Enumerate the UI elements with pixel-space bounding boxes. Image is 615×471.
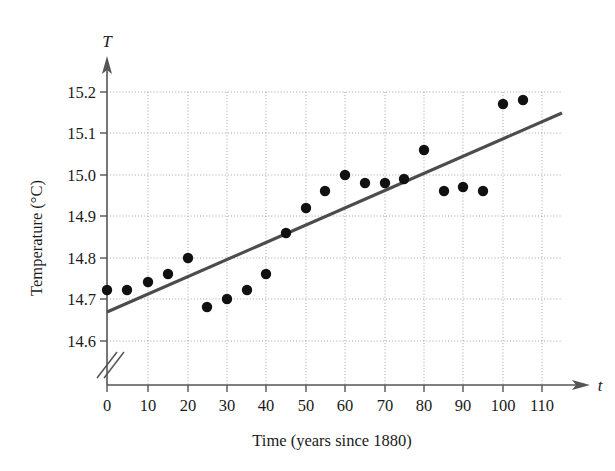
x-axis xyxy=(107,380,590,392)
y-tick-label-4: 15.0 xyxy=(67,166,96,185)
x-tick-label-4: 40 xyxy=(258,396,275,415)
y-tick-label-0: 14.6 xyxy=(67,332,96,351)
y-tick-label-2: 14.8 xyxy=(67,249,96,268)
data-point xyxy=(458,182,468,192)
data-point xyxy=(122,285,132,295)
data-points xyxy=(102,95,528,312)
y-axis-title: Temperature (°C) xyxy=(27,180,46,296)
data-point xyxy=(399,174,409,184)
data-point xyxy=(380,178,390,188)
y-tick-labels: 15.2 15.1 15.0 14.9 14.8 14.7 14.6 xyxy=(67,83,96,351)
x-tick-label-3: 30 xyxy=(219,396,236,415)
data-point xyxy=(419,145,429,155)
y-tick-label-6: 15.2 xyxy=(67,83,96,102)
data-point xyxy=(320,186,330,196)
x-tick-label-6: 60 xyxy=(337,396,354,415)
y-axis-symbol: T xyxy=(102,32,113,51)
data-point xyxy=(202,302,212,312)
data-point xyxy=(439,186,449,196)
x-tick-labels: 0 10 20 30 40 50 60 70 80 90 100 110 xyxy=(103,396,554,415)
data-point xyxy=(102,285,112,295)
data-point xyxy=(143,277,153,287)
x-tick-label-2: 20 xyxy=(180,396,197,415)
x-tick-label-0: 0 xyxy=(103,396,111,415)
data-point xyxy=(360,178,370,188)
x-tick-label-7: 70 xyxy=(377,396,394,415)
y-axis-break-icon xyxy=(97,352,124,378)
scatter-plot-figure: 15.2 15.1 15.0 14.9 14.8 14.7 14.6 0 10 … xyxy=(0,0,615,471)
data-point xyxy=(242,285,252,295)
x-tick-label-8: 80 xyxy=(416,396,433,415)
y-axis xyxy=(97,56,124,385)
data-point xyxy=(183,253,193,263)
data-point xyxy=(340,170,350,180)
data-point xyxy=(498,99,508,109)
x-axis-symbol: t xyxy=(598,376,604,395)
data-point xyxy=(163,269,173,279)
x-tick-label-10: 100 xyxy=(491,396,516,415)
x-axis-title: Time (years since 1880) xyxy=(252,431,411,450)
y-tick-label-3: 14.9 xyxy=(67,207,96,226)
y-tick-label-1: 14.7 xyxy=(67,290,96,309)
x-tick-label-5: 50 xyxy=(298,396,315,415)
data-point xyxy=(478,186,488,196)
x-tick-label-1: 10 xyxy=(140,396,157,415)
regression-line xyxy=(107,113,562,312)
data-point xyxy=(301,203,311,213)
data-point xyxy=(222,294,232,304)
data-point xyxy=(281,228,291,238)
x-tick-label-9: 90 xyxy=(455,396,472,415)
horizontal-gridlines xyxy=(107,92,562,341)
y-tick-label-5: 15.1 xyxy=(67,124,96,143)
chart-canvas: 15.2 15.1 15.0 14.9 14.8 14.7 14.6 0 10 … xyxy=(0,0,615,471)
data-point xyxy=(518,95,528,105)
data-point xyxy=(261,269,271,279)
x-tick-label-11: 110 xyxy=(530,396,554,415)
